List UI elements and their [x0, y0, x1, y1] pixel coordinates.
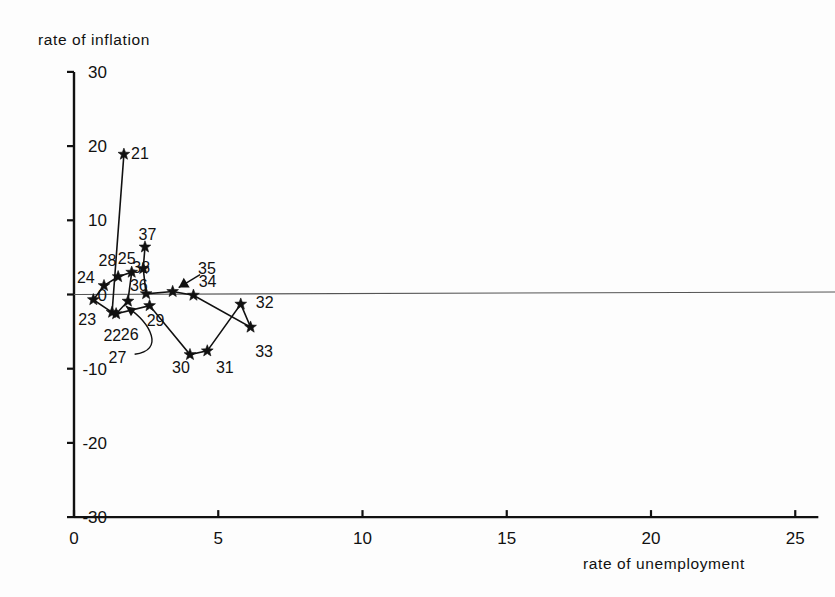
y-tick-label: 0 — [61, 286, 107, 303]
y-tick-label: -20 — [61, 434, 107, 451]
x-tick-label: 25 — [786, 530, 805, 547]
y-tick-label: -10 — [61, 360, 107, 377]
point-label-27: 27 — [109, 350, 127, 366]
point-label-30: 30 — [172, 360, 190, 376]
x-tick-label: 10 — [353, 530, 372, 547]
plot-canvas — [0, 0, 835, 597]
x-tick-label: 5 — [214, 530, 223, 547]
y-tick-label: 30 — [61, 63, 107, 80]
point-label-28: 28 — [99, 253, 117, 269]
point-label-29: 29 — [147, 313, 165, 329]
y-axis-title: rate of inflation — [38, 32, 150, 48]
point-label-32: 32 — [256, 295, 274, 311]
point-label-35: 35 — [198, 261, 216, 277]
point-label-37: 37 — [139, 227, 157, 243]
point-label-38: 38 — [132, 260, 150, 276]
data-point-marker — [235, 298, 247, 309]
y-tick-label: 20 — [61, 138, 107, 155]
point-label-22: 22 — [103, 328, 121, 344]
data-point-marker — [245, 321, 257, 332]
point-label-33: 33 — [255, 344, 273, 360]
point-label-24: 24 — [77, 270, 95, 286]
point-label-26: 26 — [121, 327, 139, 343]
point-label-31: 31 — [216, 360, 234, 376]
data-point-marker — [188, 289, 200, 300]
y-tick-label: -30 — [61, 509, 107, 526]
point-label-21: 21 — [131, 146, 149, 162]
data-point-marker — [144, 299, 156, 310]
x-axis-title: rate of unemployment — [583, 556, 745, 572]
y-tick-label: 10 — [61, 212, 107, 229]
x-tick-label: 15 — [497, 530, 516, 547]
point-label-36: 36 — [130, 278, 148, 294]
point-label-23: 23 — [78, 312, 96, 328]
chart-figure: rate of inflation rate of unemployment 3… — [0, 0, 835, 597]
x-tick-label: 0 — [69, 530, 78, 547]
x-tick-label: 20 — [642, 530, 661, 547]
data-point-marker — [167, 285, 179, 296]
